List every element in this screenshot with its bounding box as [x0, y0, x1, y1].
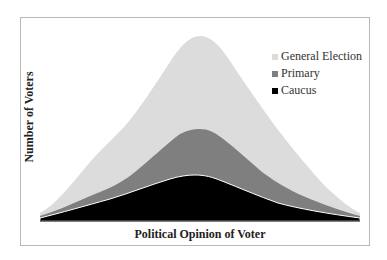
x-axis-label: Political Opinion of Voter: [134, 227, 265, 242]
legend-item-general-election: General Election: [272, 48, 362, 65]
legend-item-primary: Primary: [272, 65, 362, 82]
legend-swatch-icon: [272, 71, 278, 77]
y-axis-label: Number of Voters: [22, 71, 37, 162]
legend-label: Caucus: [281, 83, 316, 98]
legend-swatch-icon: [272, 54, 278, 60]
legend-swatch-icon: [272, 88, 278, 94]
legend-label: General Election: [281, 49, 362, 64]
legend-item-caucus: Caucus: [272, 82, 362, 99]
area-chart: [0, 0, 387, 260]
legend: General Election Primary Caucus: [272, 48, 362, 99]
legend-label: Primary: [281, 66, 320, 81]
